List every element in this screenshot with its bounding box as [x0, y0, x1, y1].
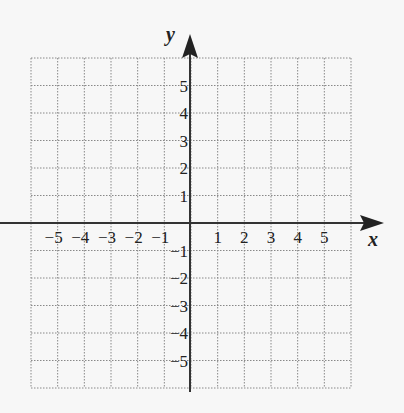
y-tick-label: −4 — [170, 324, 189, 343]
y-tick-label: 1 — [180, 187, 189, 206]
y-tick-label: 3 — [180, 132, 189, 151]
y-tick-label: −3 — [170, 297, 188, 316]
coordinate-plane: x y −5−4−3−2−112345 54321−1−2−3−4−5 — [0, 0, 404, 413]
x-tick-label: 5 — [320, 228, 329, 247]
x-tick-label: 1 — [213, 228, 222, 247]
y-tick-label: −5 — [170, 352, 188, 371]
x-tick-label: −1 — [151, 228, 169, 247]
x-tick-label: 2 — [240, 228, 249, 247]
x-tick-label: −4 — [71, 228, 90, 247]
x-tick-label: −2 — [125, 228, 143, 247]
x-tick-label: 3 — [267, 228, 276, 247]
x-tick-label: −3 — [98, 228, 116, 247]
x-tick-label: −5 — [45, 228, 63, 247]
y-axis-label: y — [164, 23, 175, 46]
y-tick-label: 2 — [180, 159, 189, 178]
y-tick-label: −1 — [170, 242, 188, 261]
x-axis-label: x — [367, 228, 378, 250]
x-tick-label: 4 — [293, 228, 302, 247]
y-tick-label: 4 — [180, 104, 189, 123]
y-tick-label: −2 — [170, 269, 188, 288]
y-tick-label: 5 — [180, 77, 189, 96]
